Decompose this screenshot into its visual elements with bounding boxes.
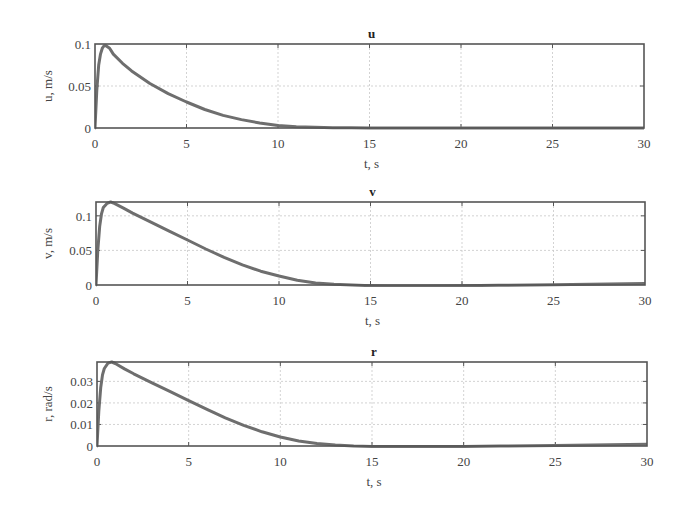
x-axis-label: t, s [365, 313, 380, 328]
x-tick-label: 5 [184, 293, 191, 308]
x-tick-label: 5 [183, 136, 190, 151]
subplot-title: u [368, 26, 375, 41]
x-tick-label: 20 [456, 293, 469, 308]
x-tick-label: 10 [274, 454, 287, 469]
subplot-v: 05101520253000.050.1vt, sv, m/s [40, 184, 652, 328]
x-axis-label: t, s [366, 474, 381, 489]
y-tick-label: 0.02 [70, 396, 93, 411]
x-tick-label: 10 [272, 136, 285, 151]
y-tick-label: 0.05 [69, 243, 92, 258]
y-tick-label: 0.1 [75, 37, 91, 52]
x-tick-label: 30 [641, 454, 654, 469]
y-tick-label: 0 [85, 121, 92, 136]
figure: 05101520253000.050.1ut, su, m/s051015202… [0, 0, 693, 525]
subplot-r: 05101520253000.010.020.03rt, sr, rad/s [40, 344, 654, 489]
x-tick-label: 30 [639, 293, 652, 308]
x-tick-label: 15 [364, 293, 377, 308]
y-axis-label: v, m/s [40, 228, 55, 259]
y-axis-label: r, rad/s [40, 386, 55, 422]
y-tick-label: 0.03 [70, 374, 93, 389]
subplot-title: v [369, 184, 376, 199]
series-line-u [95, 46, 644, 128]
x-tick-label: 25 [546, 136, 559, 151]
y-tick-label: 0 [86, 278, 93, 293]
x-tick-label: 20 [457, 454, 470, 469]
x-tick-label: 25 [549, 454, 562, 469]
x-axis-label: t, s [364, 156, 379, 171]
x-tick-label: 0 [93, 293, 100, 308]
y-tick-label: 0 [87, 439, 94, 454]
x-tick-label: 10 [273, 293, 286, 308]
y-tick-label: 0.05 [68, 79, 91, 94]
y-axis-label: u, m/s [40, 70, 55, 102]
x-tick-label: 15 [363, 136, 376, 151]
x-tick-label: 20 [455, 136, 468, 151]
x-tick-label: 5 [185, 454, 192, 469]
x-tick-label: 30 [638, 136, 651, 151]
x-tick-label: 0 [92, 136, 99, 151]
subplot-title: r [371, 344, 377, 359]
y-tick-label: 0.01 [70, 417, 93, 432]
x-tick-label: 15 [366, 454, 379, 469]
subplot-u: 05101520253000.050.1ut, su, m/s [40, 26, 651, 171]
x-tick-label: 25 [547, 293, 560, 308]
y-tick-label: 0.1 [76, 209, 92, 224]
x-tick-label: 0 [94, 454, 101, 469]
